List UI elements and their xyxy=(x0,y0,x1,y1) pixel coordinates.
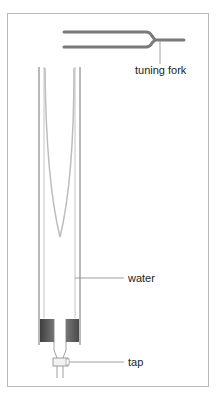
tuning-fork-label: tuning fork xyxy=(135,64,186,76)
water-surface-curve xyxy=(45,68,74,237)
tap-label: tap xyxy=(128,356,143,368)
water-label: water xyxy=(128,272,155,284)
stopper xyxy=(40,319,79,342)
tuning-fork-icon xyxy=(64,32,184,47)
resonance-tube-diagram xyxy=(0,0,222,397)
tap-icon xyxy=(53,342,69,378)
